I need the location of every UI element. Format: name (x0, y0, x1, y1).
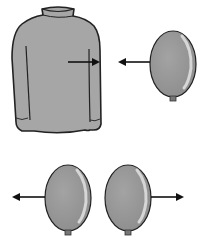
balloon-icon-bottom-right (105, 165, 151, 235)
sweater-icon (12, 7, 101, 133)
balloon-icon-bottom-left (45, 165, 91, 235)
balloon-icon-top (150, 31, 196, 101)
arrow-left-bottom (12, 193, 45, 201)
arrow-left-from-balloon (118, 58, 150, 66)
diagram-canvas (0, 0, 207, 244)
arrow-right-bottom (151, 193, 184, 201)
